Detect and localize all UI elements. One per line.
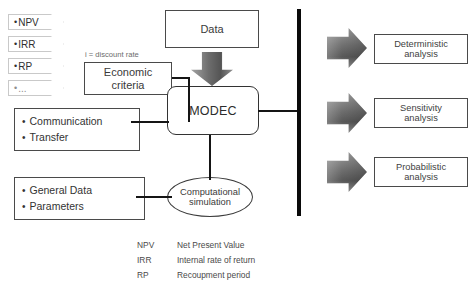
deterministic-analysis-line2: analysis <box>404 49 438 59</box>
list-item: General Data <box>22 183 144 199</box>
data-box-label: Data <box>200 23 223 35</box>
tag-npv-label: NPV <box>18 17 39 28</box>
legend-abbr: RP <box>137 268 177 283</box>
computational-simulation-ellipse: Computational simulation <box>167 177 253 217</box>
tag-npv-bullet: • <box>14 18 17 27</box>
economic-criteria-line1: Economic <box>104 66 152 78</box>
connector-modec-to-simulation <box>209 135 211 180</box>
tag-rp: • RP <box>8 58 64 74</box>
modec-label: MODEC <box>189 104 237 118</box>
right-arrow-probabilistic-icon <box>327 152 367 192</box>
probabilistic-analysis-line2: analysis <box>404 172 438 182</box>
communication-transfer-box: Communication Transfer <box>14 108 140 151</box>
connector-generaldata-to-simulation <box>136 196 172 198</box>
tag-more-label: ... <box>18 83 26 94</box>
right-arrow-sensitivity-icon <box>327 93 367 133</box>
down-arrow-icon <box>191 52 233 86</box>
connector-communication-to-modec <box>131 121 169 123</box>
connector-economic-to-modec-v <box>188 77 190 122</box>
tag-irr: • IRR <box>8 36 64 52</box>
list-item: Communication <box>22 114 139 130</box>
sensitivity-analysis-box: Sensitivity analysis <box>374 98 468 128</box>
right-arrow-deterministic-icon <box>327 28 367 68</box>
legend-desc: Internal rate of return <box>177 253 255 268</box>
tag-rp-bullet: • <box>14 62 17 71</box>
legend-desc: Net Present Value <box>177 238 244 253</box>
computational-simulation-line1: Computational <box>180 187 240 197</box>
legend-abbr: IRR <box>137 253 177 268</box>
tag-rp-label: RP <box>18 61 32 72</box>
probabilistic-analysis-line1: Probabilistic <box>396 162 446 172</box>
legend-abbr: NPV <box>137 238 177 253</box>
legend-row: IRR Internal rate of return <box>137 253 255 268</box>
general-data-parameters-box: General Data Parameters <box>14 177 145 220</box>
list-item: Parameters <box>22 199 144 215</box>
connector-modec-to-bus <box>258 110 300 112</box>
economic-criteria-box: Economic criteria <box>84 62 172 95</box>
economic-criteria-line2: criteria <box>111 79 144 91</box>
tag-more-bullet: • <box>14 84 17 93</box>
computational-simulation-line2: simulation <box>189 197 231 207</box>
discount-rate-note: i = discount rate <box>85 50 139 59</box>
sensitivity-analysis-line2: analysis <box>404 113 438 123</box>
legend: NPV Net Present Value IRR Internal rate … <box>137 238 255 283</box>
tag-npv: • NPV <box>8 14 64 30</box>
vertical-bus-bar <box>297 9 301 216</box>
tag-irr-bullet: • <box>14 40 17 49</box>
flow-diagram-canvas: • NPV • IRR • RP • ... Data i = discount… <box>0 0 475 289</box>
tag-irr-label: IRR <box>18 39 35 50</box>
probabilistic-analysis-box: Probabilistic analysis <box>374 157 468 187</box>
list-item: Transfer <box>22 130 139 146</box>
legend-row: RP Recoupment period <box>137 268 255 283</box>
tag-more: • ... <box>8 80 64 96</box>
sensitivity-analysis-line1: Sensitivity <box>400 103 442 113</box>
deterministic-analysis-box: Deterministic analysis <box>374 34 468 64</box>
deterministic-analysis-line1: Deterministic <box>394 39 448 49</box>
data-box: Data <box>165 10 259 48</box>
legend-desc: Recoupment period <box>177 268 250 283</box>
modec-box: MODEC <box>167 86 259 135</box>
legend-row: NPV Net Present Value <box>137 238 255 253</box>
